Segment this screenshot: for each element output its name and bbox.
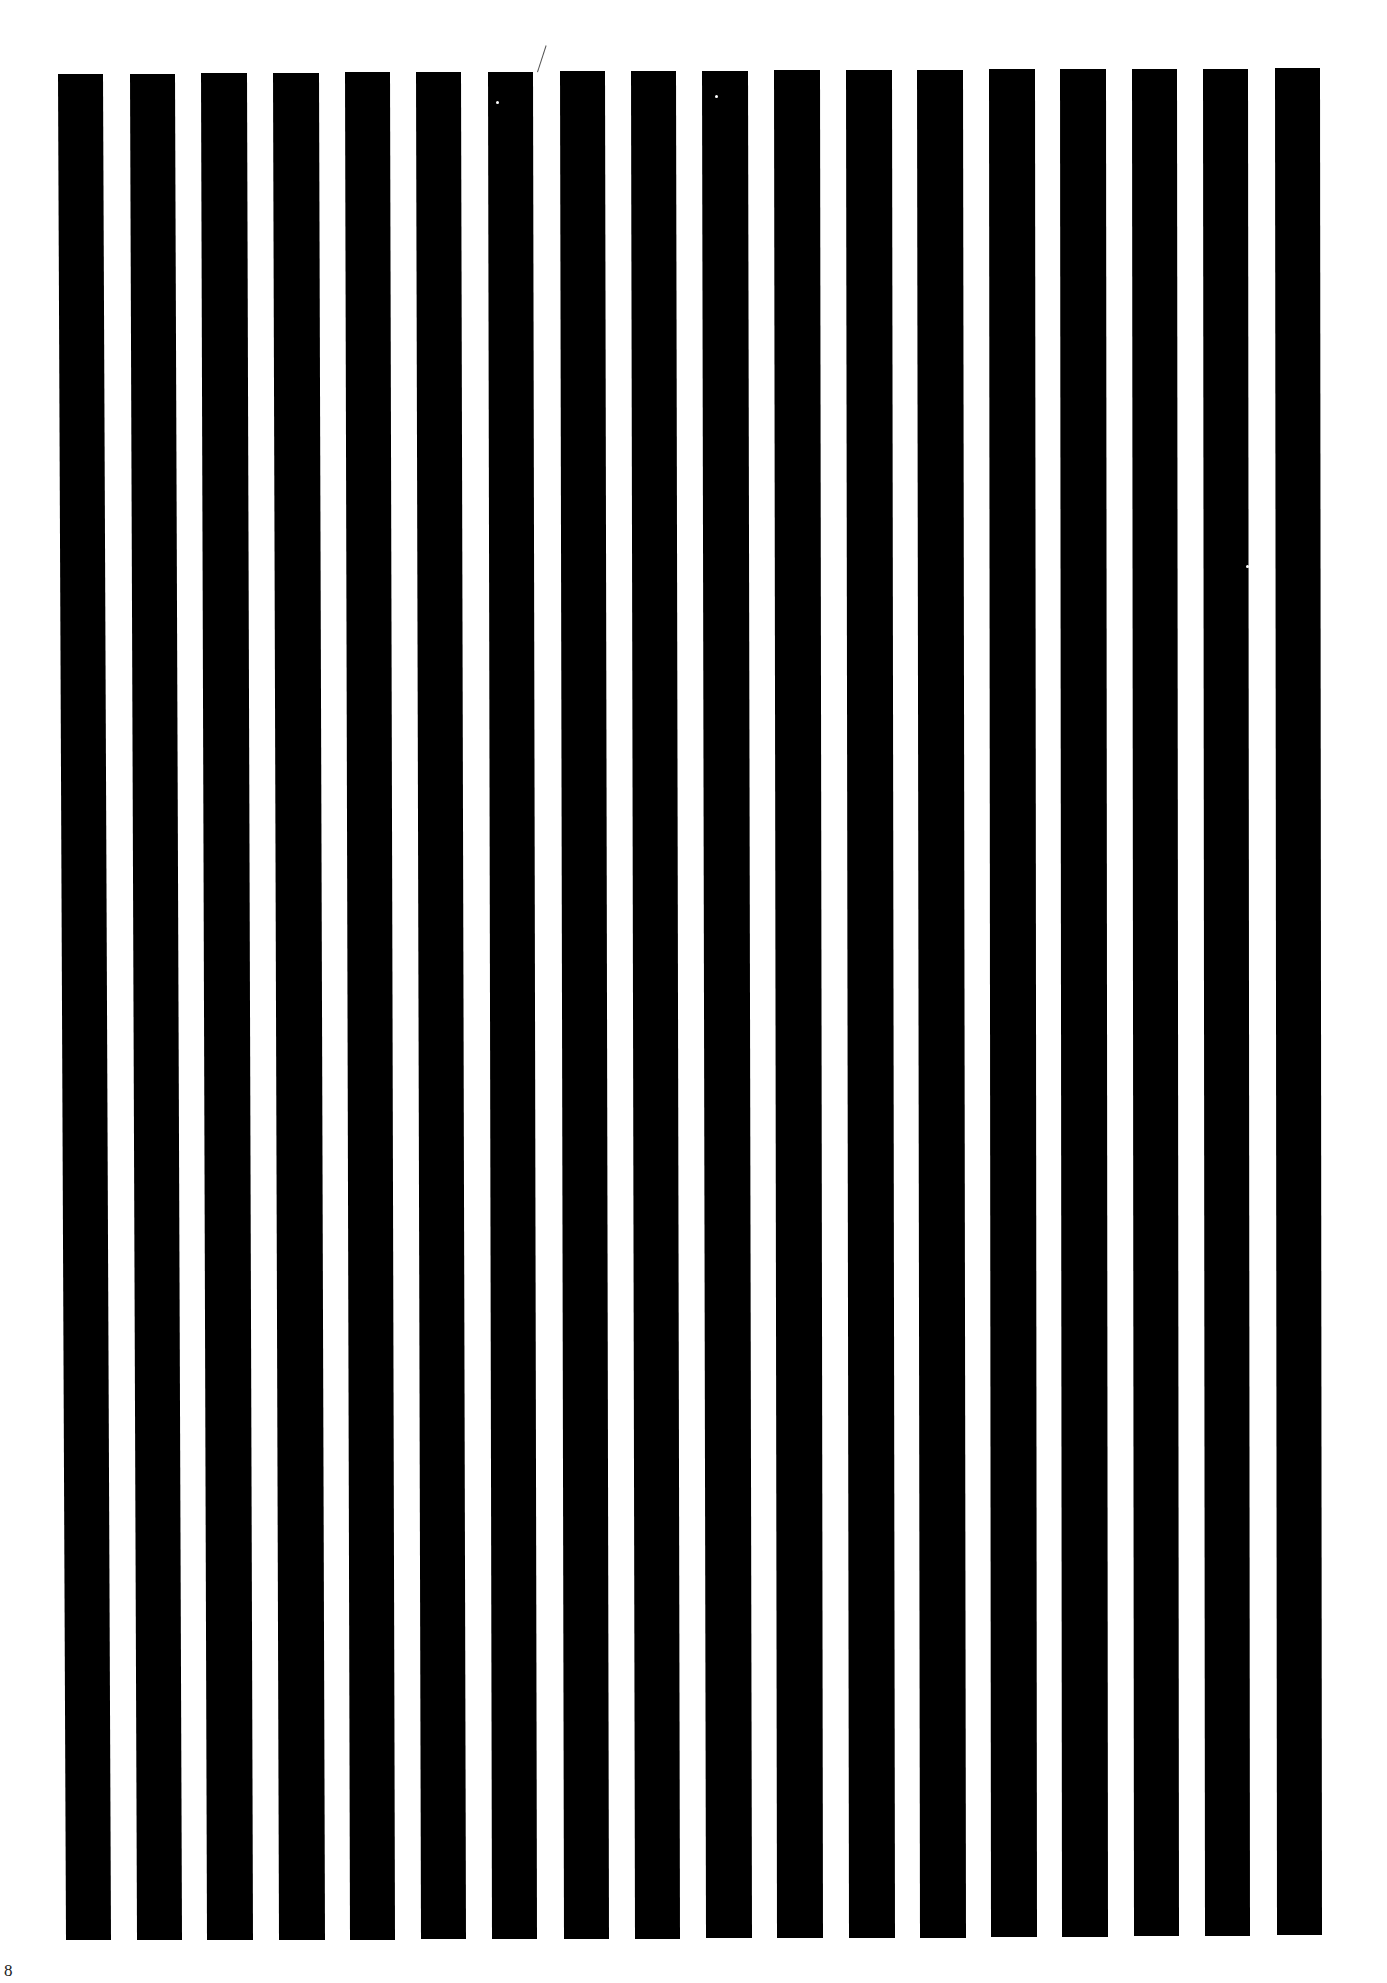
stripe-14 [989,69,1037,1937]
scan-speck-3 [1246,565,1249,568]
scan-scratch-mark [537,45,547,72]
document-page [0,0,1387,1983]
scan-speck-1 [496,101,499,104]
scan-speck-4 [1322,1128,1325,1131]
stripe-2 [130,74,182,1940]
stripe-15 [1060,69,1108,1937]
stripe-12 [846,70,895,1938]
stripe-13 [917,70,966,1938]
stripe-17 [1203,69,1250,1936]
stripe-3 [201,73,253,1940]
stripe-11 [774,70,823,1938]
stripe-6 [416,72,466,1939]
scan-speck-2 [715,95,718,98]
page-number: 8 [4,1962,13,1979]
stripe-7 [488,72,537,1939]
stripe-18 [1275,68,1322,1935]
stripe-1 [58,74,111,1940]
stripe-4 [273,73,325,1940]
stripe-16 [1132,69,1179,1936]
stripe-9 [631,71,680,1939]
stripe-8 [560,71,609,1939]
stripe-10 [702,71,752,1938]
stripe-5 [345,72,395,1940]
